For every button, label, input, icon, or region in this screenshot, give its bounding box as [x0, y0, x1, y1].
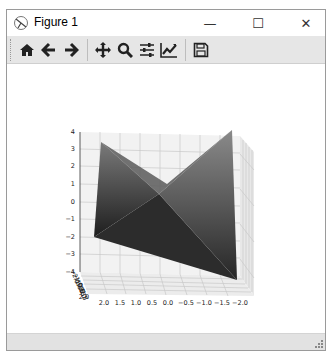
- status-bar: [7, 333, 325, 350]
- svg-text:−1.0: −1.0: [196, 299, 212, 307]
- minimize-button[interactable]: —: [189, 10, 231, 36]
- maximize-icon: ☐: [252, 16, 264, 31]
- home-button[interactable]: [17, 39, 37, 61]
- pan-button[interactable]: [93, 39, 113, 61]
- window-title: Figure 1: [34, 15, 78, 29]
- svg-text:−1.5: −1.5: [214, 299, 230, 307]
- svg-text:4: 4: [71, 128, 75, 136]
- svg-text:−0.5: −0.5: [178, 299, 194, 307]
- svg-text:−1: −1: [65, 215, 75, 223]
- svg-text:1.0: 1.0: [131, 299, 141, 307]
- arrow-left-icon: [41, 42, 57, 58]
- x-tick-labels: 2.0 1.5 1.0 0.5 0.0 −0.5 −1.0 −1.5 −2.0: [99, 299, 248, 307]
- edit-axis-button[interactable]: [159, 39, 179, 61]
- maximize-button[interactable]: ☐: [237, 10, 279, 36]
- floppy-disk-icon: [193, 42, 209, 58]
- toolbar-separator: [87, 39, 88, 61]
- zoom-button[interactable]: [115, 39, 135, 61]
- surface-plot[interactable]: 4 3 2 1 0 −1 −2 −3 −4 2.0 1.5 1.0 0.5 0.…: [7, 64, 325, 334]
- figure-window: Figure 1 — ☐ ✕: [6, 9, 326, 351]
- matplotlib-logo-icon: [13, 15, 29, 31]
- svg-text:2: 2: [71, 162, 75, 170]
- svg-text:3: 3: [71, 145, 75, 153]
- svg-text:−3: −3: [65, 250, 75, 258]
- svg-text:2.0: 2.0: [79, 293, 89, 301]
- back-button[interactable]: [39, 39, 59, 61]
- svg-text:1.5: 1.5: [115, 299, 125, 307]
- svg-text:2.0: 2.0: [99, 299, 109, 307]
- minimize-icon: —: [204, 16, 217, 31]
- svg-text:0.0: 0.0: [163, 299, 173, 307]
- magnifier-icon: [117, 42, 133, 58]
- figure-canvas[interactable]: 4 3 2 1 0 −1 −2 −3 −4 2.0 1.5 1.0 0.5 0.…: [7, 64, 325, 334]
- move-icon: [95, 42, 111, 58]
- configure-subplots-button[interactable]: [137, 39, 157, 61]
- navigation-toolbar: [7, 36, 325, 64]
- sliders-icon: [139, 42, 155, 58]
- svg-text:0.5: 0.5: [147, 299, 157, 307]
- toolbar-grip[interactable]: [10, 39, 13, 61]
- close-button[interactable]: ✕: [285, 10, 327, 36]
- save-button[interactable]: [191, 39, 211, 61]
- close-icon: ✕: [301, 16, 312, 31]
- resize-grip-icon[interactable]: [315, 340, 323, 348]
- home-icon: [19, 42, 35, 58]
- svg-text:0: 0: [71, 198, 75, 206]
- chart-line-icon: [160, 42, 178, 58]
- toolbar-separator: [185, 39, 186, 61]
- svg-text:−2.0: −2.0: [232, 299, 248, 307]
- svg-text:1: 1: [71, 180, 75, 188]
- arrow-right-icon: [63, 42, 79, 58]
- z-tick-labels: 4 3 2 1 0 −1 −2 −3 −4: [65, 128, 75, 276]
- svg-text:−2: −2: [65, 233, 75, 241]
- title-bar[interactable]: Figure 1 — ☐ ✕: [7, 10, 325, 36]
- forward-button[interactable]: [61, 39, 81, 61]
